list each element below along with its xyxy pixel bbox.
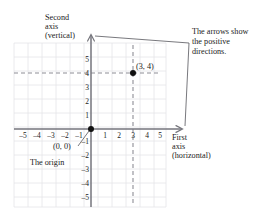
arrows-note-line2: the positive <box>192 37 230 46</box>
axis-arrowheads <box>88 35 183 133</box>
x-axis-title-line2: axis <box>172 142 185 151</box>
y-axis-title-line3: (vertical) <box>45 31 75 40</box>
x-tick-1: 1 <box>99 131 111 140</box>
x-tick-5: 5 <box>154 131 166 140</box>
arrows-note-leader <box>95 36 189 126</box>
coordinate-plane-figure: –5 –4 –3 –2 –1 1 2 3 4 5 5 4 3 2 1 –1 –2… <box>0 0 274 220</box>
x-axis-title-line3: (horizontal) <box>172 151 211 160</box>
origin-coordinates-label: (0, 0) <box>53 142 71 151</box>
y-tick--3: –3 <box>76 165 89 174</box>
y-tick--2: –2 <box>76 151 89 160</box>
y-tick-2: 2 <box>78 97 89 106</box>
y-axis-title-line1: Second <box>45 13 69 22</box>
y-tick--1: –1 <box>76 137 89 146</box>
y-tick-1: 1 <box>78 111 89 120</box>
y-tick-4: 4 <box>78 69 89 78</box>
y-tick--5: –5 <box>76 193 89 202</box>
point-label-3-4: (3, 4) <box>136 62 154 71</box>
x-tick-3: 3 <box>127 131 139 140</box>
x-tick--3: –3 <box>45 131 57 140</box>
x-tick--5: –5 <box>17 131 29 140</box>
origin-caption-label: The origin <box>30 158 64 167</box>
arrows-note-line1: The arrows show <box>192 27 248 36</box>
arrows-note-line3: directions. <box>192 47 226 56</box>
x-tick--4: –4 <box>31 131 43 140</box>
y-tick--4: –4 <box>76 179 89 188</box>
point-origin <box>88 126 94 132</box>
x-tick-4: 4 <box>141 131 153 140</box>
y-tick-5: 5 <box>78 55 89 64</box>
x-tick--2: –2 <box>59 131 71 140</box>
x-axis-title-line1: First <box>172 133 187 142</box>
y-tick-3: 3 <box>78 83 89 92</box>
y-axis-title-line2: axis <box>45 22 58 31</box>
x-tick-2: 2 <box>113 131 125 140</box>
